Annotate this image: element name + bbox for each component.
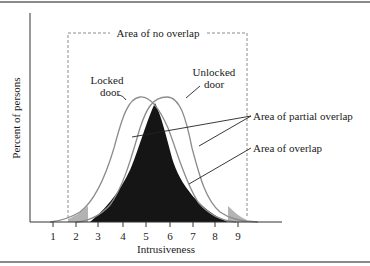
locked-door-label-line2: door [100,86,121,98]
tick-label: 9 [235,230,241,242]
tick-label: 3 [95,230,101,242]
tick-label: 7 [190,230,196,242]
x-tick-labels: 1 2 3 4 5 6 7 8 9 [50,230,241,242]
overlap-leader [189,148,251,184]
tick-label: 4 [120,230,126,242]
unlocked-door-label-line2: door [204,78,225,90]
locked-door-label-line1: Locked [91,74,124,86]
unlocked-door-label-line1: Unlocked [193,66,236,78]
tick-label: 1 [50,230,56,242]
partial-overlap-label: Area of partial overlap [253,110,353,122]
no-overlap-label: Area of no overlap [117,27,200,39]
tick-label: 5 [143,230,149,242]
x-axis-label: Intrusiveness [137,243,195,255]
chart-canvas: 1 2 3 4 5 6 7 8 9 Intrusiveness Percent … [0,0,370,266]
tick-label: 8 [212,230,218,242]
x-ticks [53,222,238,227]
y-axis-label: Percent of persons [10,77,22,158]
tick-label: 2 [73,230,79,242]
unlocked-door-leader [186,86,200,98]
overlap-label: Area of overlap [253,142,323,154]
tick-label: 6 [167,230,173,242]
